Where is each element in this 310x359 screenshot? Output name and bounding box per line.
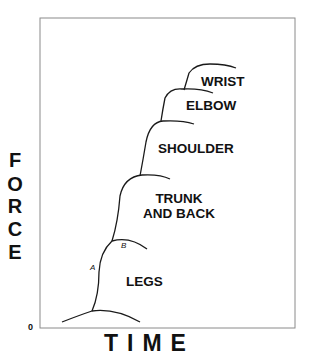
y-axis-label-letter: C (7, 219, 23, 239)
y-axis-label-letter: R (7, 196, 23, 216)
trunk-label-line1: TRUNK (143, 191, 215, 206)
wrist-label: WRIST (201, 74, 245, 89)
y-axis-label-letter: E (7, 242, 23, 262)
trunk-label-line2: AND BACK (143, 206, 215, 221)
y-axis-label-letter: O (7, 174, 23, 194)
y-axis-label-letter: F (7, 150, 23, 170)
plot-frame (40, 18, 295, 328)
base-curve (62, 310, 140, 322)
trunk-and-back-label: TRUNK AND BACK (143, 191, 215, 221)
point-b-label: B (121, 241, 126, 250)
legs-label: LEGS (126, 274, 163, 289)
origin-label: 0 (28, 322, 33, 332)
force-time-diagram (0, 0, 310, 359)
point-a-label: A (90, 263, 95, 272)
shoulder-label: SHOULDER (158, 141, 234, 156)
x-axis-label: TIME (104, 331, 195, 355)
elbow-label: ELBOW (186, 98, 236, 113)
